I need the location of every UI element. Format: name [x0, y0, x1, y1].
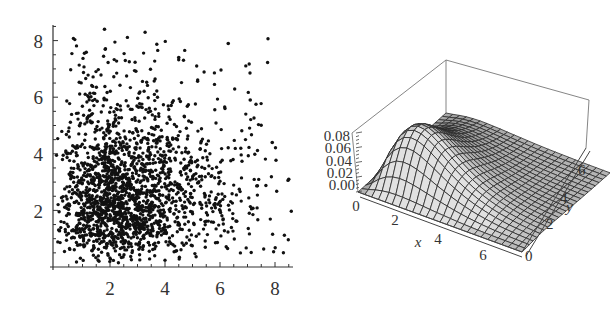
z-tick-label: 0.08: [324, 128, 350, 144]
surface-plot: 0.00 0.02 0.04 0.06 0.08 0 2 4 6 x 0 2 4…: [324, 60, 610, 264]
surface-x-tick-label: 0: [352, 198, 360, 214]
scatter-points: [55, 27, 293, 264]
surface-x-tick-label: 2: [391, 212, 399, 228]
surface-x-tick-label: 4: [434, 231, 442, 247]
figure: 2 4 6 8 2 4 6 8 0.00 0.02 0.04: [0, 0, 614, 312]
scatter-y-tick-label: 4: [34, 144, 44, 165]
surface-y-axis-label: y: [564, 199, 573, 215]
scatter-x-tick-label: 2: [105, 278, 115, 299]
surface-y-tick-label: 0: [525, 248, 533, 264]
scatter-y-tick-label: 2: [34, 201, 44, 222]
surface-y-tick-label: 2: [546, 216, 554, 232]
scatter-x-tick-label: 6: [215, 278, 225, 299]
scatter-x-tick-label: 4: [160, 278, 170, 299]
surface-mesh: [358, 113, 610, 252]
surface-x-tick-label: 6: [479, 247, 487, 263]
surface-x-axis-label: x: [414, 234, 422, 250]
scatter-y-tick-label: 8: [34, 31, 44, 52]
scatter-x-tick-label: 8: [270, 278, 280, 299]
surface-y-tick-label: 6: [578, 162, 586, 178]
scatter-plot: 2 4 6 8 2 4 6 8: [34, 25, 294, 299]
scatter-y-tick-label: 6: [34, 87, 44, 108]
